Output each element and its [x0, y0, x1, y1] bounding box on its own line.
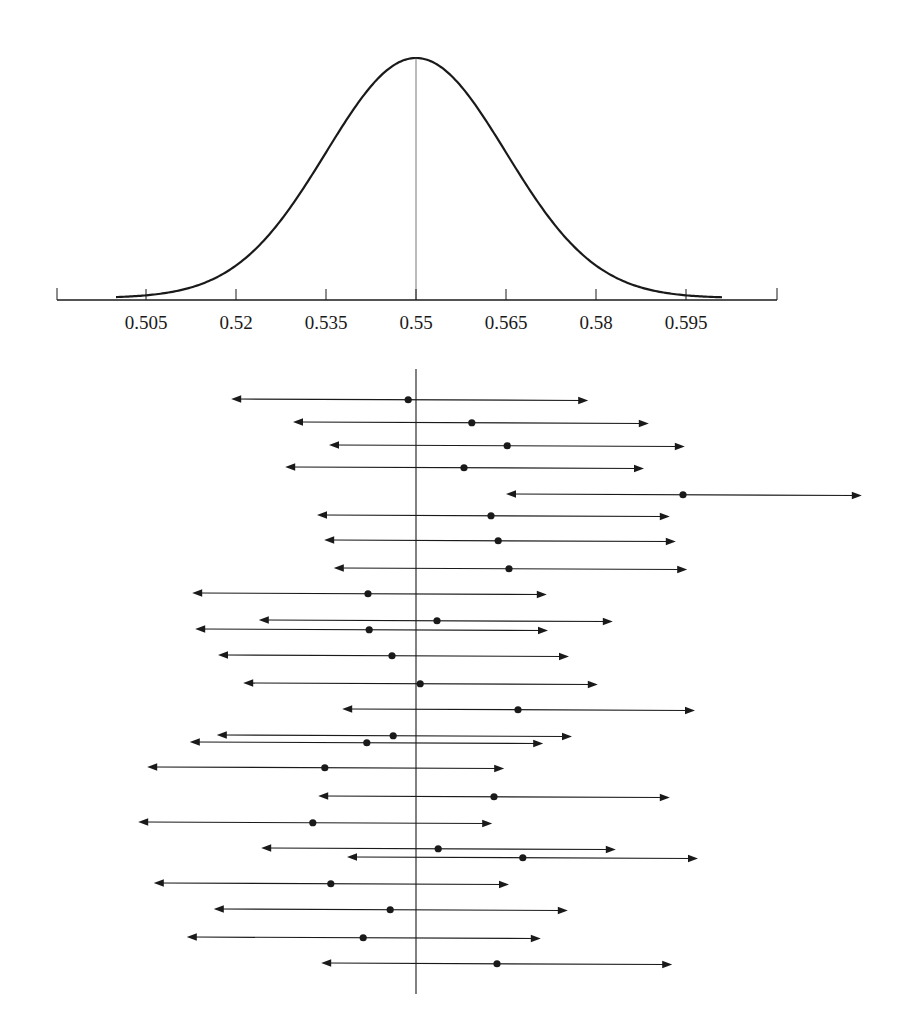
- right-arrow-icon: [531, 935, 541, 943]
- right-arrow-icon: [533, 740, 543, 748]
- interval-row: [317, 511, 670, 520]
- confidence-intervals: [138, 395, 862, 968]
- right-arrow-icon: [558, 907, 568, 915]
- right-arrow-icon: [562, 733, 572, 741]
- left-arrow-icon: [329, 441, 339, 449]
- left-arrow-icon: [217, 731, 227, 739]
- point-estimate-dot: [460, 464, 467, 471]
- point-estimate-dot: [493, 960, 500, 967]
- interval-row: [192, 589, 547, 598]
- right-arrow-icon: [660, 794, 670, 802]
- left-arrow-icon: [334, 564, 344, 572]
- interval-row: [195, 625, 548, 634]
- right-arrow-icon: [662, 961, 672, 969]
- left-arrow-icon: [147, 763, 157, 771]
- interval-row: [190, 738, 543, 747]
- chart-canvas: 0.5050.520.5350.550.5650.580.595: [0, 0, 900, 1018]
- interval-row: [324, 536, 676, 545]
- point-estimate-dot: [490, 793, 497, 800]
- point-estimate-dot: [387, 906, 394, 913]
- left-arrow-icon: [261, 844, 271, 852]
- point-estimate-dot: [364, 590, 371, 597]
- left-arrow-icon: [195, 625, 205, 633]
- left-arrow-icon: [285, 463, 295, 471]
- left-arrow-icon: [218, 651, 228, 659]
- tick-label: 0.595: [665, 312, 708, 333]
- left-arrow-icon: [214, 905, 224, 913]
- interval-row: [138, 818, 492, 827]
- left-arrow-icon: [293, 418, 303, 426]
- tick-label: 0.505: [125, 312, 168, 333]
- point-estimate-dot: [417, 680, 424, 687]
- interval-row: [243, 679, 598, 688]
- tick-label: 0.58: [579, 312, 612, 333]
- sampling-distribution-curve: [116, 58, 722, 300]
- right-arrow-icon: [660, 513, 670, 521]
- left-arrow-icon: [342, 705, 352, 713]
- right-arrow-icon: [588, 681, 598, 689]
- interval-row: [154, 879, 509, 888]
- right-arrow-icon: [606, 846, 616, 854]
- left-arrow-icon: [324, 536, 334, 544]
- right-arrow-icon: [499, 881, 509, 889]
- point-estimate-dot: [366, 626, 373, 633]
- left-arrow-icon: [347, 853, 357, 861]
- right-arrow-icon: [677, 566, 687, 574]
- right-arrow-icon: [578, 397, 588, 405]
- point-estimate-dot: [504, 442, 511, 449]
- right-arrow-icon: [688, 855, 698, 863]
- point-estimate-dot: [468, 419, 475, 426]
- right-arrow-icon: [538, 627, 548, 635]
- interval-row: [187, 933, 541, 942]
- tick-label: 0.535: [305, 312, 348, 333]
- point-estimate-dot: [309, 819, 316, 826]
- normal-curve: [116, 58, 722, 297]
- right-arrow-icon: [603, 618, 613, 626]
- point-estimate-dot: [519, 854, 526, 861]
- point-estimate-dot: [327, 880, 334, 887]
- point-estimate-dot: [388, 652, 395, 659]
- interval-row: [261, 844, 616, 853]
- left-arrow-icon: [192, 589, 202, 597]
- left-arrow-icon: [138, 818, 148, 826]
- point-estimate-dot: [679, 491, 686, 498]
- right-arrow-icon: [639, 420, 649, 428]
- tick-label: 0.52: [219, 312, 252, 333]
- interval-row: [285, 463, 644, 472]
- left-arrow-icon: [231, 395, 241, 403]
- right-arrow-icon: [537, 591, 547, 599]
- interval-row: [347, 853, 698, 862]
- interval-row: [318, 792, 670, 801]
- left-arrow-icon: [506, 490, 516, 498]
- left-arrow-icon: [318, 792, 328, 800]
- confidence-interval-chart: 0.5050.520.5350.550.5650.580.595: [0, 0, 900, 1018]
- interval-row: [342, 705, 695, 714]
- left-arrow-icon: [259, 616, 269, 624]
- point-estimate-dot: [390, 732, 397, 739]
- point-estimate-dot: [495, 537, 502, 544]
- left-arrow-icon: [317, 511, 327, 519]
- point-estimate-dot: [435, 845, 442, 852]
- point-estimate-dot: [321, 764, 328, 771]
- interval-row: [334, 564, 687, 573]
- interval-row: [259, 616, 613, 625]
- point-estimate-dot: [405, 396, 412, 403]
- left-arrow-icon: [190, 738, 200, 746]
- left-arrow-icon: [187, 933, 197, 941]
- point-estimate-dot: [487, 512, 494, 519]
- interval-row: [214, 905, 568, 914]
- right-arrow-icon: [666, 538, 676, 546]
- tick-label: 0.565: [485, 312, 528, 333]
- point-estimate-dot: [514, 706, 521, 713]
- interval-row: [147, 763, 504, 772]
- point-estimate-dot: [433, 617, 440, 624]
- interval-row: [321, 959, 672, 968]
- right-arrow-icon: [685, 707, 695, 715]
- left-arrow-icon: [321, 959, 331, 967]
- right-arrow-icon: [494, 765, 504, 773]
- left-arrow-icon: [243, 679, 253, 687]
- interval-row: [293, 418, 649, 427]
- point-estimate-dot: [505, 565, 512, 572]
- right-arrow-icon: [482, 820, 492, 828]
- left-arrow-icon: [154, 879, 164, 887]
